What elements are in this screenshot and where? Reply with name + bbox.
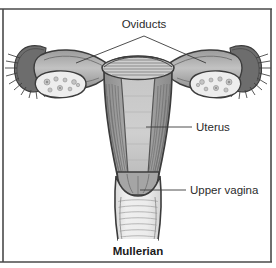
label-oviducts: Oviducts (122, 18, 167, 30)
label-upper-vagina: Upper vagina (190, 184, 259, 196)
left-ovary (35, 71, 86, 98)
figure-container: Oviducts Uterus Upper vagina Mullerian (0, 0, 276, 268)
mullerian-anatomy-diagram: Oviducts Uterus Upper vagina Mullerian (0, 0, 276, 268)
label-uterus: Uterus (196, 121, 230, 133)
right-ovary (190, 71, 241, 98)
uterine-fundus (102, 57, 174, 80)
figure-caption: Mullerian (113, 245, 163, 257)
